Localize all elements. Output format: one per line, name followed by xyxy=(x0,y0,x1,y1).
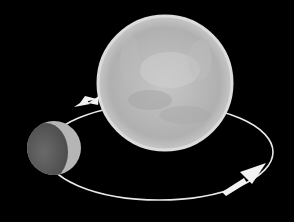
orbit-path-front xyxy=(45,152,273,200)
orbit-arrow-upper-left-icon xyxy=(74,96,99,107)
orbiting-body xyxy=(24,121,81,181)
orbit-arrow-lower-right-icon xyxy=(222,163,266,196)
orbit-diagram xyxy=(0,0,294,222)
primary-body xyxy=(98,16,232,150)
